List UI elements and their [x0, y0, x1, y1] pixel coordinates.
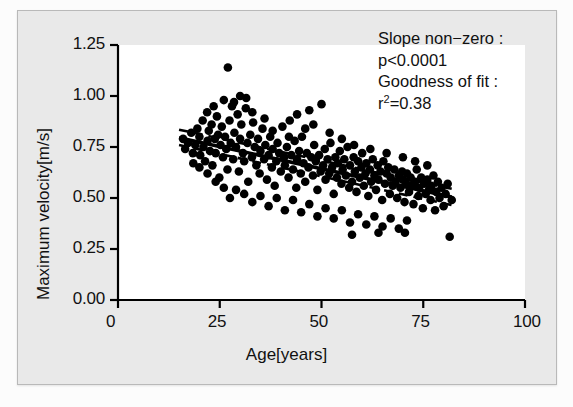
scatter-point [348, 230, 357, 239]
slope-test-label: Slope non−zero : [378, 28, 503, 50]
scatter-point [256, 192, 265, 201]
scatter-point [423, 161, 432, 170]
scatter-point [264, 202, 273, 211]
scatter-point [254, 135, 263, 144]
scatter-point [244, 177, 253, 186]
scatter-point [255, 169, 264, 178]
scatter-point [313, 212, 322, 221]
scatter-point [305, 200, 314, 209]
scatter-point [260, 114, 269, 123]
scatter-point [313, 186, 322, 195]
y-tick-label: 1.00 [73, 85, 105, 105]
scatter-point [350, 141, 359, 150]
scatter-point [248, 198, 257, 207]
scatter-point [224, 63, 233, 72]
scatter-point [301, 124, 310, 133]
scatter-point [220, 96, 229, 105]
goodness-of-fit-label: Goodness of fit : [378, 71, 503, 93]
scatter-point [240, 190, 249, 199]
scatter-point [400, 198, 409, 207]
scatter-point [248, 108, 257, 117]
scatter-point [198, 116, 207, 125]
scatter-point [258, 124, 267, 133]
scatter-point [354, 210, 363, 219]
scatter-point [217, 122, 226, 131]
scatter-point [362, 220, 371, 229]
scatter-point [230, 98, 239, 107]
scatter-point [209, 102, 218, 111]
scatter-point [237, 120, 246, 129]
scatter-point [285, 133, 294, 142]
y-tick-label: 0.50 [73, 187, 105, 207]
scatter-point [366, 145, 375, 154]
scatter-point [412, 165, 421, 174]
scatter-point [317, 100, 326, 109]
scatter-point [249, 118, 258, 127]
scatter-point [203, 108, 212, 117]
scatter-point [338, 135, 347, 144]
scatter-point [401, 228, 410, 237]
scatter-point [329, 190, 338, 199]
scatter-point [263, 175, 272, 184]
scatter-point [278, 122, 287, 131]
scatter-point [268, 126, 277, 135]
scatter-point [211, 177, 220, 186]
scatter-point [208, 161, 217, 170]
scatter-point [409, 200, 418, 209]
statistics-annotation: Slope non−zero : p<0.0001 Goodness of fi… [378, 28, 503, 114]
x-tick-label: 100 [0, 312, 573, 332]
scatter-point [399, 153, 408, 162]
scatter-point [242, 94, 251, 103]
scatter-point [370, 212, 379, 221]
scatter-point [419, 204, 428, 213]
scatter-point [193, 124, 202, 133]
scatter-point [189, 149, 198, 158]
scatter-point [310, 141, 319, 150]
scatter-point [284, 173, 293, 182]
p-value-text: p<0.0001 [378, 50, 503, 72]
scatter-point [226, 194, 235, 203]
scatter-point [283, 143, 292, 152]
scatter-point [232, 186, 241, 195]
scatter-point [223, 165, 232, 174]
r-squared-text: r2=0.38 [378, 93, 503, 115]
scatter-point [289, 196, 298, 205]
y-axis-label-text: Maximum velocity[m/s] [34, 128, 54, 300]
scatter-point [233, 110, 242, 119]
scatter-point [305, 106, 314, 115]
scatter-point [189, 159, 198, 168]
scatter-point [445, 232, 454, 241]
scatter-point [403, 216, 412, 225]
scatter-point [207, 120, 216, 129]
scatter-point [386, 214, 395, 223]
scatter-point [378, 196, 387, 205]
scatter-point [213, 112, 222, 121]
scatter-point [374, 228, 383, 237]
scatter-point [382, 149, 391, 158]
scatter-point [346, 218, 355, 227]
scatter-point [411, 157, 420, 166]
scatter-point [295, 147, 304, 156]
scatter-point [293, 110, 302, 119]
scatter-point [235, 167, 244, 176]
scatter-point [292, 184, 301, 193]
y-tick-label: 0.00 [73, 289, 105, 309]
r-squared-value: =0.38 [390, 94, 432, 112]
scatter-point [246, 130, 255, 139]
y-tick-label: 1.25 [73, 34, 105, 54]
scatter-point [285, 116, 294, 125]
x-axis-label: Age[years] [0, 345, 573, 365]
x-axis-label-text: Age[years] [246, 345, 327, 364]
scatter-point [297, 208, 306, 217]
figure-container: 0.000.250.500.751.001.25 0255075100 Maxi… [0, 0, 573, 407]
y-tick-label: 0.75 [73, 136, 105, 156]
scatter-point [431, 206, 440, 215]
scatter-point [203, 169, 212, 178]
scatter-point [272, 194, 281, 203]
scatter-point [220, 184, 229, 193]
scatter-point [325, 128, 334, 137]
scatter-point [298, 133, 307, 142]
y-tick-label: 0.25 [73, 238, 105, 258]
scatter-point [338, 206, 347, 215]
scatter-point [321, 204, 330, 213]
